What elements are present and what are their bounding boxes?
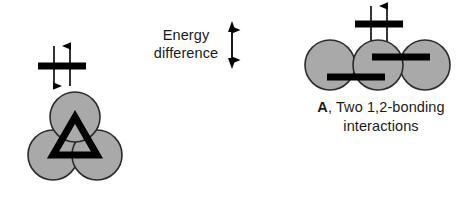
energy-difference-arrow-head-down xyxy=(228,58,236,69)
energy-difference-label: Energy difference xyxy=(150,26,222,62)
orbital-center-circle xyxy=(353,40,403,90)
bond-1-2-lower-bar xyxy=(327,74,385,81)
caption-line1-rest: , Two 1,2-bonding xyxy=(328,99,445,115)
orbital-right-circle xyxy=(400,40,450,90)
right-structure-group xyxy=(305,6,450,90)
caption-line1: A, Two 1,2-bonding xyxy=(306,98,456,117)
left-structure-group xyxy=(28,46,122,180)
energy-difference-arrow-head-up xyxy=(228,21,236,32)
caption-lead-letter: A xyxy=(317,99,328,115)
left-energy-level-bar xyxy=(38,63,86,70)
bond-2-3-upper-bar xyxy=(372,54,430,61)
right-energy-level-bar xyxy=(355,21,403,28)
caption-line2: interactions xyxy=(306,117,456,136)
orbital-left-circle xyxy=(305,40,355,90)
energy-difference-line2: difference xyxy=(150,44,222,62)
energy-difference-arrow-group xyxy=(228,21,236,69)
right-structure-caption: A, Two 1,2-bonding interactions xyxy=(306,98,456,136)
energy-difference-line1: Energy xyxy=(150,26,222,44)
figure-canvas: Energy difference A, Two 1,2-bonding int… xyxy=(0,0,462,199)
left-energy-level-group xyxy=(38,46,86,86)
